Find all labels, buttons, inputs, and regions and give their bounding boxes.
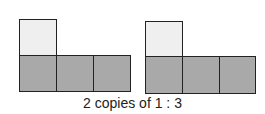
dark-square (145, 56, 183, 94)
light-square (145, 21, 183, 57)
light-square (19, 19, 57, 56)
caption: 2 copies of 1 : 3 (0, 95, 265, 111)
dark-square (56, 55, 94, 92)
dark-square (219, 56, 256, 94)
dark-square (182, 56, 220, 94)
dark-square (19, 55, 57, 92)
dark-square (93, 55, 131, 92)
